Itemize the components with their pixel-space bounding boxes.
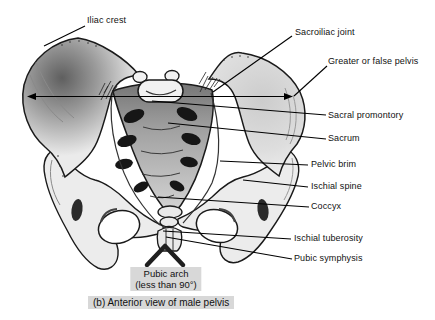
label-sacral-promontory: Sacral promontory bbox=[328, 110, 403, 120]
figure-caption: (b) Anterior view of male pelvis bbox=[88, 296, 234, 309]
l5-vertebra bbox=[133, 71, 183, 103]
label-greater-false-pelvis: Greater or false pelvis bbox=[328, 56, 418, 66]
label-sacrum: Sacrum bbox=[328, 133, 360, 143]
pubic-arch-annotation-line1: Pubic arch bbox=[135, 268, 196, 279]
pubic-arch-annotation: Pubic arch (less than 90°) bbox=[130, 267, 201, 291]
label-ischial-tuberosity: Ischial tuberosity bbox=[294, 233, 363, 243]
label-iliac-crest: Iliac crest bbox=[87, 15, 126, 25]
pelvis-illustration bbox=[0, 0, 435, 320]
figure-male-pelvis: Iliac crest Sacroiliac joint Greater or … bbox=[0, 0, 435, 320]
label-pubic-symphysis: Pubic symphysis bbox=[294, 253, 363, 263]
label-ischial-spine: Ischial spine bbox=[311, 181, 362, 191]
label-pelvic-brim: Pelvic brim bbox=[311, 159, 356, 169]
pubic-arch-annotation-line2: (less than 90°) bbox=[135, 279, 196, 290]
label-coccyx: Coccyx bbox=[311, 201, 341, 211]
label-sacroiliac-joint: Sacroiliac joint bbox=[295, 27, 355, 37]
